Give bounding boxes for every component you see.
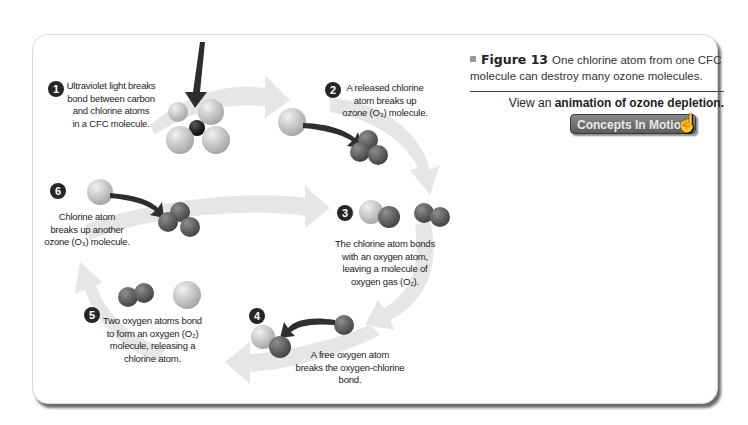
step-1-badge: 1 [48, 81, 64, 97]
step-4-badge: 4 [249, 308, 265, 324]
figure-caption: Figure 13One chlorine atom from one CFC … [470, 52, 724, 84]
step-4-caption: A free oxygen atom breaks the oxygen-chl… [290, 349, 410, 387]
caption-divider [470, 91, 724, 92]
step-1-caption: Ultraviolet light breaks bond between ca… [66, 80, 156, 130]
step3-molecules [359, 200, 450, 228]
animation-link[interactable]: animation of ozone depletion. [555, 96, 724, 110]
bullet-square-icon [470, 56, 476, 62]
step-2-caption: A released chlorine atom breaks up ozone… [340, 82, 430, 120]
step-5-caption: Two oxygen atoms bond to form an oxygen … [100, 315, 205, 365]
animation-prompt: View an animation of ozone depletion. [470, 96, 724, 110]
step-2-badge: 2 [325, 82, 341, 98]
step-3-caption: The chlorine atom bonds with an oxygen a… [325, 238, 445, 288]
step-6-badge: 6 [50, 183, 66, 199]
step-6-caption: Chlorine atom breaks up another ozone (O… [42, 211, 132, 249]
step5-molecules [118, 281, 201, 309]
figure-label: Figure 13 [481, 52, 548, 67]
step-3-badge: 3 [337, 205, 353, 221]
hand-pointer-icon: ☝ [676, 112, 698, 134]
step-5-badge: 5 [84, 307, 100, 323]
